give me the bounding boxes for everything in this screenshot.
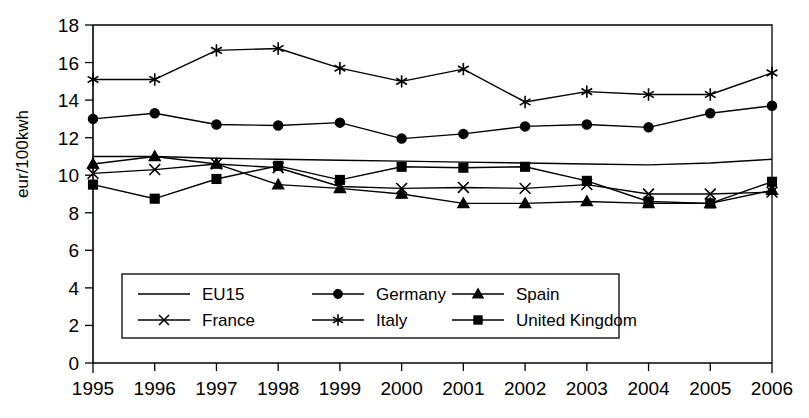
series-united-kingdom bbox=[89, 161, 777, 207]
marker-asterisk bbox=[335, 62, 346, 74]
chart-canvas: 024681012141618 199519961997199819992000… bbox=[0, 0, 809, 418]
y-tick-label: 0 bbox=[68, 353, 79, 374]
marker-square bbox=[521, 162, 530, 171]
x-tick-label: 2005 bbox=[689, 378, 731, 399]
x-axis-ticks: 1995199619971998199920002001200220032004… bbox=[72, 363, 793, 399]
marker-circle bbox=[397, 134, 406, 143]
marker-circle bbox=[212, 120, 221, 129]
series-germany bbox=[88, 101, 776, 143]
marker-square bbox=[459, 163, 468, 172]
marker-square bbox=[706, 199, 715, 208]
marker-asterisk bbox=[767, 67, 778, 79]
series-spain bbox=[87, 151, 777, 208]
y-tick-label: 14 bbox=[58, 90, 80, 111]
marker-circle bbox=[88, 114, 97, 123]
x-tick-label: 1999 bbox=[319, 378, 361, 399]
marker-square bbox=[582, 176, 591, 185]
marker-asterisk bbox=[396, 75, 407, 87]
x-tick-label: 1998 bbox=[257, 378, 299, 399]
y-tick-label: 16 bbox=[58, 53, 79, 74]
marker-circle bbox=[334, 290, 342, 298]
marker-circle bbox=[150, 109, 159, 118]
x-tick-label: 2003 bbox=[566, 378, 608, 399]
x-tick-label: 2001 bbox=[442, 378, 484, 399]
marker-circle bbox=[274, 121, 283, 130]
line-chart: 024681012141618 199519961997199819992000… bbox=[0, 0, 809, 418]
y-tick-label: 6 bbox=[68, 240, 79, 261]
y-tick-label: 10 bbox=[58, 165, 79, 186]
legend-label: France bbox=[202, 311, 255, 330]
marker-asterisk bbox=[458, 63, 469, 75]
y-axis-label: eur/100kwh bbox=[13, 110, 32, 198]
series-italy bbox=[88, 42, 778, 108]
series-layer bbox=[87, 42, 777, 208]
y-tick-label: 8 bbox=[68, 203, 79, 224]
marker-circle bbox=[520, 122, 529, 131]
series-path bbox=[93, 48, 772, 102]
series-path bbox=[93, 156, 772, 203]
marker-square bbox=[397, 162, 406, 171]
series-path bbox=[93, 106, 772, 139]
marker-circle bbox=[335, 118, 344, 127]
x-tick-label: 1996 bbox=[134, 378, 176, 399]
marker-square bbox=[336, 176, 345, 185]
marker-circle bbox=[582, 120, 591, 129]
legend-label: Germany bbox=[376, 285, 446, 304]
legend-label: United Kingdom bbox=[516, 311, 637, 330]
chart-legend: EU15GermanySpainFranceItalyUnited Kingdo… bbox=[122, 274, 637, 338]
marker-circle bbox=[644, 123, 653, 132]
marker-square bbox=[644, 197, 653, 206]
x-tick-label: 1997 bbox=[195, 378, 237, 399]
x-tick-label: 2004 bbox=[627, 378, 670, 399]
marker-square bbox=[89, 180, 98, 189]
y-tick-label: 12 bbox=[58, 128, 79, 149]
marker-square bbox=[212, 175, 221, 184]
marker-triangle bbox=[581, 196, 592, 206]
marker-circle bbox=[459, 129, 468, 138]
y-axis-title: eur/100kwh bbox=[13, 110, 32, 198]
marker-circle bbox=[706, 109, 715, 118]
marker-square bbox=[474, 316, 482, 324]
x-tick-label: 2006 bbox=[751, 378, 793, 399]
series-path bbox=[93, 164, 772, 194]
x-tick-label: 2000 bbox=[380, 378, 422, 399]
series-path bbox=[93, 166, 772, 204]
marker-square bbox=[768, 177, 777, 186]
marker-square bbox=[150, 194, 159, 203]
x-tick-label: 1995 bbox=[72, 378, 114, 399]
x-tick-label: 2002 bbox=[504, 378, 546, 399]
y-tick-label: 4 bbox=[68, 278, 79, 299]
y-axis-ticks: 024681012141618 bbox=[58, 15, 93, 374]
legend-label: Spain bbox=[516, 285, 559, 304]
legend-label: EU15 bbox=[202, 285, 245, 304]
marker-square bbox=[274, 161, 283, 170]
y-tick-label: 18 bbox=[58, 15, 79, 36]
y-tick-label: 2 bbox=[68, 315, 79, 336]
marker-circle bbox=[767, 101, 776, 110]
legend-label: Italy bbox=[376, 311, 408, 330]
